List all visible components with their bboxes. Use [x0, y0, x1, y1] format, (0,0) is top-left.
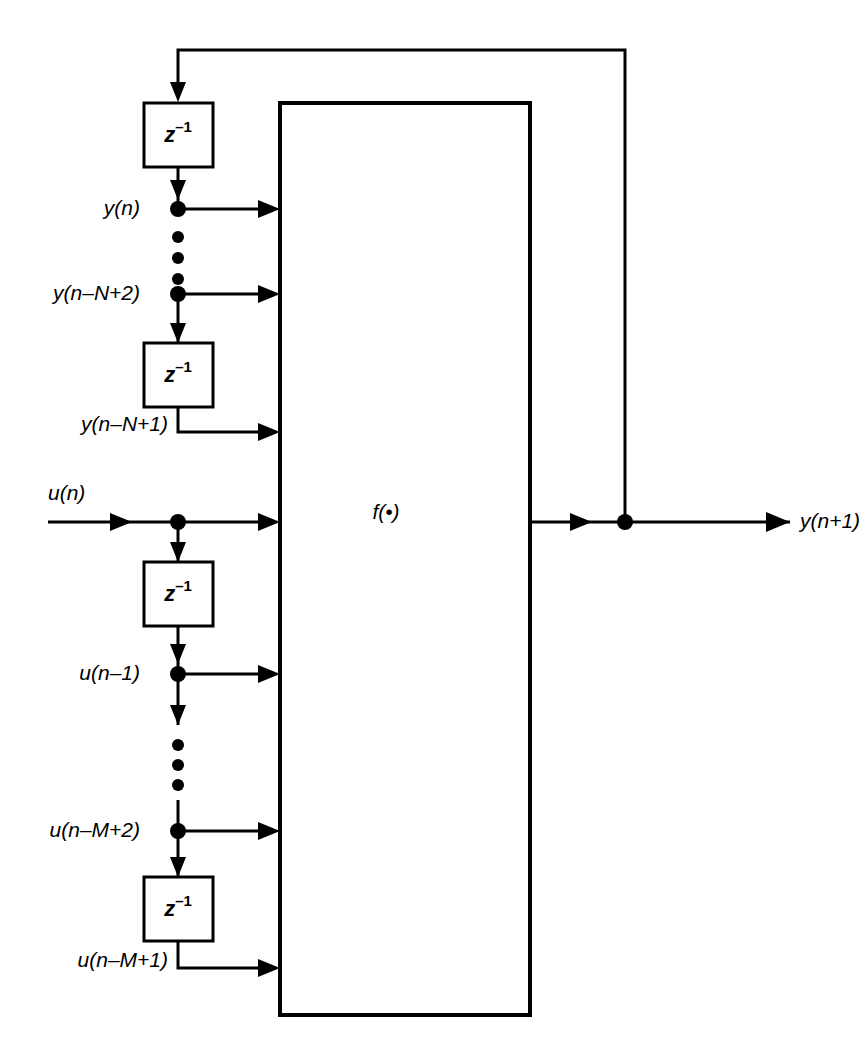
ellipsis-dot-feedback-3 — [172, 273, 184, 285]
arrowhead-tap-y-nN1 — [258, 423, 280, 441]
label-tap-u-nM1: u(n–M+1) — [78, 948, 168, 971]
arrowhead-tap-u-nM1 — [258, 959, 280, 977]
arrowhead-delay-y2-in — [170, 323, 186, 343]
signal-flow-diagram: f(•) z–1 y(n) y(n–N+2) — [0, 0, 862, 1051]
delay-block-u-2 — [144, 877, 213, 941]
delay-u-1-base: z — [163, 581, 175, 606]
ellipsis-dot-feedback-1 — [172, 231, 184, 243]
diagram-canvas: f(•) z–1 y(n) y(n–N+2) — [0, 0, 862, 1051]
nonlinear-mapping-block — [280, 103, 530, 1015]
arrowhead-tap-u-n1 — [258, 665, 280, 683]
feedback-path-arrowhead — [170, 82, 186, 102]
arrowhead-tap-y-nN2 — [258, 285, 280, 303]
wire-delay-y2-to-block — [178, 407, 272, 432]
arrowhead-u-n1-down — [170, 705, 186, 725]
ellipsis-dot-feedback-2 — [172, 252, 184, 264]
arrowhead-delay-u1-out — [170, 644, 186, 664]
label-tap-y-n: y(n) — [102, 196, 140, 219]
label-tap-y-nN1: y(n–N+1) — [79, 412, 168, 435]
label-output-signal: y(n+1) — [798, 509, 860, 532]
delay-y-2-exp: –1 — [175, 358, 192, 375]
ellipsis-dot-input-3 — [172, 779, 184, 791]
arrowhead-output-mid — [570, 513, 592, 531]
junction-dot-output — [617, 514, 633, 530]
delay-u-2-exp: –1 — [175, 892, 192, 909]
delay-y-1-exp: –1 — [175, 118, 192, 135]
delay-block-y-1 — [144, 103, 213, 167]
label-tap-u-n1: u(n–1) — [79, 661, 140, 684]
arrowhead-delay-u1-in — [170, 542, 186, 562]
arrowhead-tap-u-nM2 — [258, 822, 280, 840]
delay-u-1-exp: –1 — [175, 577, 192, 594]
wire-delay-u2-to-block — [178, 941, 272, 968]
nonlinear-mapping-block-label: f(•) — [372, 500, 399, 523]
delay-u-2-base: z — [163, 896, 175, 921]
ellipsis-dot-input-1 — [172, 739, 184, 751]
delay-y-2-base: z — [163, 362, 175, 387]
arrowhead-input-u-n-block — [258, 513, 280, 531]
arrowhead-output-end — [766, 512, 790, 532]
label-tap-y-nN2: y(n–N+2) — [51, 281, 140, 304]
label-tap-u-nM2: u(n–M+2) — [50, 818, 140, 841]
label-tap-u-n: u(n) — [48, 481, 85, 504]
delay-block-y-2 — [144, 343, 213, 407]
delay-block-u-1 — [144, 562, 213, 626]
arrowhead-tap-y-n — [258, 200, 280, 218]
arrowhead-delay-u2-in — [170, 857, 186, 877]
ellipsis-dot-input-2 — [172, 759, 184, 771]
arrowhead-input-u-n-mid — [110, 513, 132, 531]
delay-y-1-base: z — [163, 122, 175, 147]
arrowhead-delay-y1-out — [170, 180, 186, 200]
